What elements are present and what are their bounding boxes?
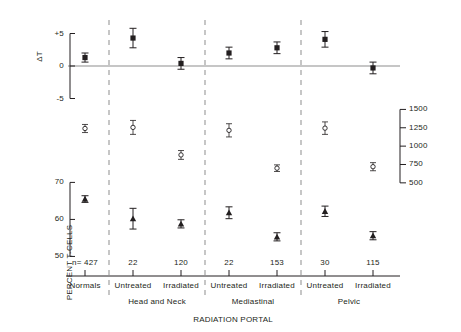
category-label: Untreated xyxy=(211,281,248,290)
sample-size-label: 115 xyxy=(366,258,379,267)
sample-size-label: 153 xyxy=(270,258,284,267)
total-t-cells-tick-label: 1000 xyxy=(409,141,428,150)
group-label: Pelvic xyxy=(338,297,361,306)
data-point-delta-t xyxy=(322,37,327,42)
total-t-cells-tick-label: 1500 xyxy=(409,104,428,113)
data-point-delta-t xyxy=(130,35,135,40)
data-point-delta-t xyxy=(178,61,183,66)
data-point-delta-t xyxy=(274,45,279,50)
data-point-delta-t xyxy=(82,55,87,60)
delta-t-tick-label: +5 xyxy=(54,29,64,38)
delta-t-axis-title: ΔT xyxy=(35,51,44,62)
group-label: Mediastinal xyxy=(232,297,275,306)
total-t-cells-tick-label: 750 xyxy=(409,159,423,168)
data-point-total-t-cells xyxy=(227,128,231,132)
data-point-total-t-cells xyxy=(131,125,135,129)
x-axis-title: RADIATION PORTAL xyxy=(193,315,273,324)
data-point-percent-t-cells xyxy=(82,196,88,202)
chart-container: +50-5150012501000750500706050n= 427Norma… xyxy=(0,0,461,332)
data-point-delta-t xyxy=(370,65,375,70)
group-label: Head and Neck xyxy=(128,297,186,306)
data-point-percent-t-cells xyxy=(130,215,136,221)
percent-t-cells-axis-title: PERCENT T-CELLS xyxy=(65,225,74,301)
category-label: Irradiated xyxy=(163,281,199,290)
sample-size-label: 22 xyxy=(224,258,233,267)
category-label: Irradiated xyxy=(355,281,391,290)
sample-size-label: 22 xyxy=(128,258,137,267)
category-label: Irradiated xyxy=(259,281,295,290)
total-t-cells-tick-label: 500 xyxy=(409,178,423,187)
delta-t-tick-label: 0 xyxy=(59,61,64,70)
category-label: Untreated xyxy=(115,281,152,290)
sample-size-label: 30 xyxy=(320,258,329,267)
data-point-delta-t xyxy=(226,50,231,55)
sample-size-label: 120 xyxy=(174,258,188,267)
data-point-total-t-cells xyxy=(83,126,87,130)
data-point-percent-t-cells xyxy=(226,210,232,216)
data-point-percent-t-cells xyxy=(370,233,376,239)
percent-t-cells-tick-label: 60 xyxy=(55,214,64,223)
data-point-percent-t-cells xyxy=(178,221,184,227)
percent-t-cells-tick-label: 70 xyxy=(55,177,64,186)
data-point-percent-t-cells xyxy=(322,208,328,214)
data-point-total-t-cells xyxy=(179,153,183,157)
data-point-total-t-cells xyxy=(371,164,375,168)
data-point-percent-t-cells xyxy=(274,234,280,240)
percent-t-cells-tick-label: 50 xyxy=(55,251,64,260)
sample-size-label: n= 427 xyxy=(72,258,98,267)
delta-t-tick-label: -5 xyxy=(56,94,64,103)
data-point-total-t-cells xyxy=(275,166,279,170)
total-t-cells-tick-label: 1250 xyxy=(409,123,428,132)
category-label: Untreated xyxy=(307,281,344,290)
data-point-total-t-cells xyxy=(323,126,327,130)
